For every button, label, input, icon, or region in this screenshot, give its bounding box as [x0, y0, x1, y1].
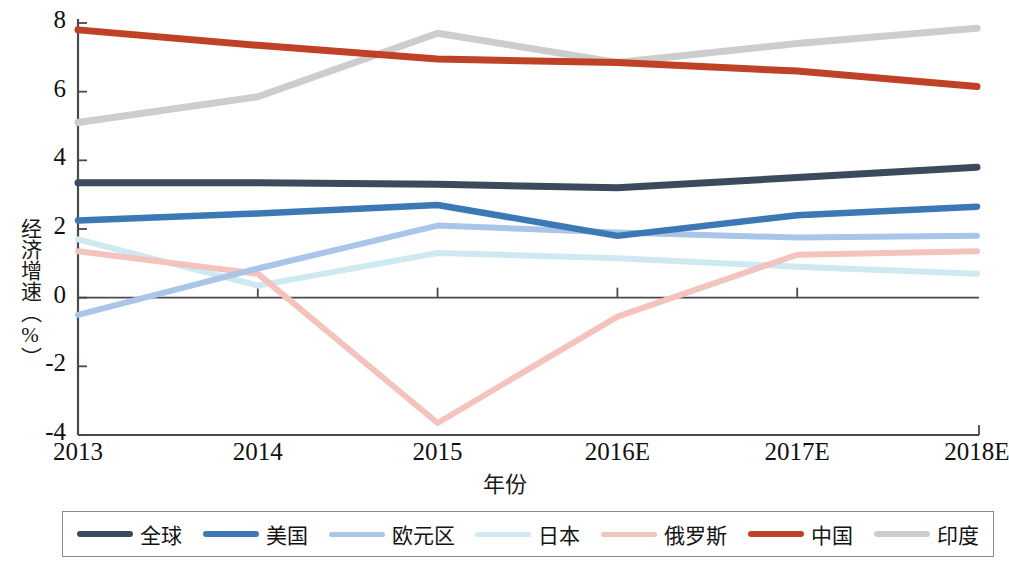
legend-item[interactable]: 日本: [475, 519, 580, 549]
legend-label: 俄罗斯: [664, 519, 727, 549]
legend-label: 中国: [811, 519, 853, 549]
y-tick-label: -2: [26, 349, 66, 377]
legend-color-swatch: [329, 532, 385, 537]
y-tick-label: 8: [26, 6, 66, 34]
legend-color-swatch: [601, 532, 657, 537]
x-tick-label: 2013: [18, 438, 138, 466]
y-tick-label: 6: [26, 75, 66, 103]
legend-label: 美国: [266, 519, 308, 549]
x-tick-label: 2015: [378, 438, 498, 466]
series-line: [78, 167, 977, 188]
legend-label: 日本: [538, 519, 580, 549]
legend-label: 全球: [140, 519, 182, 549]
legend-label: 印度: [937, 519, 979, 549]
x-tick-label: 2017E: [737, 438, 857, 466]
legend-color-swatch: [748, 531, 804, 537]
legend-color-swatch: [203, 531, 259, 537]
x-axis-title: 年份: [445, 466, 565, 498]
y-tick-label: 4: [26, 143, 66, 171]
x-tick-label: 2016E: [557, 438, 677, 466]
legend-color-swatch: [77, 531, 133, 537]
economic-growth-line-chart: 经济增速（%） 年份 全球美国欧元区日本俄罗斯中国印度 86420-2-4201…: [0, 0, 1009, 563]
legend-item[interactable]: 中国: [748, 519, 853, 549]
y-tick-label: 0: [26, 281, 66, 309]
legend-color-swatch: [475, 532, 531, 537]
legend-item[interactable]: 美国: [203, 519, 308, 549]
x-tick-label: 2014: [198, 438, 318, 466]
y-tick-label: 2: [26, 212, 66, 240]
legend-item[interactable]: 全球: [77, 519, 182, 549]
chart-legend: 全球美国欧元区日本俄罗斯中国印度: [62, 511, 994, 557]
x-tick-label: 2018E: [917, 438, 1009, 466]
legend-color-swatch: [874, 531, 930, 537]
legend-item[interactable]: 印度: [874, 519, 979, 549]
legend-item[interactable]: 俄罗斯: [601, 519, 727, 549]
legend-label: 欧元区: [392, 519, 455, 549]
legend-item[interactable]: 欧元区: [329, 519, 455, 549]
